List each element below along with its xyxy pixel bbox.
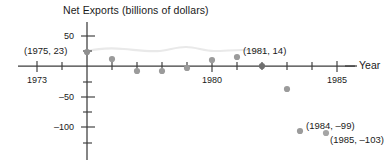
- x-tick-label-1973: 1973: [17, 76, 57, 85]
- y-tick-label-neg100: –100: [36, 123, 74, 132]
- data-point: [159, 68, 165, 74]
- chart-title: Net Exports (billions of dollars): [63, 5, 209, 16]
- data-point: [297, 128, 303, 134]
- annotation-1975: (1975, 23): [24, 46, 67, 56]
- data-point: [184, 65, 190, 71]
- data-points: [84, 49, 329, 136]
- data-point: [284, 86, 290, 92]
- annotation-1981: (1981, 14): [243, 46, 286, 56]
- data-point: [259, 63, 265, 69]
- data-point: [234, 54, 240, 60]
- trend-line: [88, 47, 266, 51]
- data-point: [209, 57, 215, 63]
- net-exports-scatter-chart: Net Exports (billions of dollars) 50 –50…: [0, 0, 390, 167]
- annotation-1984: (1984, –99): [306, 121, 355, 131]
- y-tick-label-50: 50: [48, 32, 74, 41]
- data-point: [134, 68, 140, 74]
- data-point: [109, 56, 115, 62]
- data-point: [84, 49, 90, 55]
- x-tick-label-1980: 1980: [192, 76, 232, 85]
- y-tick-label-neg50: –50: [42, 93, 74, 102]
- x-tick-label-1985: 1985: [317, 76, 357, 85]
- annotation-1985: (1985, –103): [330, 135, 384, 145]
- x-axis-label: Year: [359, 60, 380, 71]
